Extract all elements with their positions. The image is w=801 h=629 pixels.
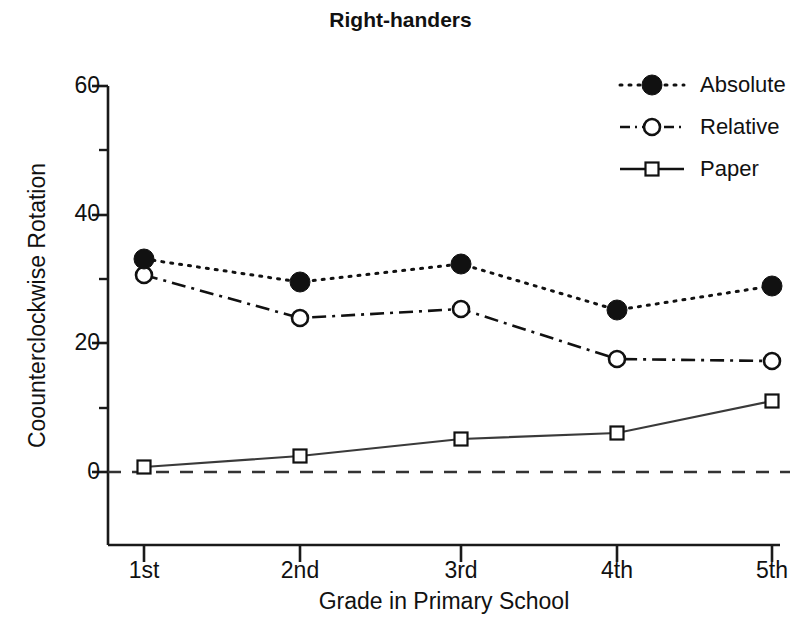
legend-key-paper bbox=[620, 163, 684, 176]
plot-area bbox=[0, 0, 801, 629]
data-point-relative-2nd bbox=[292, 310, 308, 326]
legend bbox=[620, 75, 684, 176]
data-point-absolute-5th bbox=[762, 276, 782, 296]
legend-key-relative bbox=[620, 119, 684, 135]
y-tick-label-20: 20 bbox=[40, 329, 100, 356]
x-tick-label-3rd: 3rd bbox=[421, 557, 501, 584]
legend-label-absolute: Absolute bbox=[700, 72, 786, 98]
data-point-relative-5th bbox=[764, 353, 780, 369]
data-point-absolute-4th bbox=[607, 300, 627, 320]
x-axis-label: Grade in Primary School bbox=[108, 588, 780, 615]
data-point-paper-4th bbox=[611, 427, 624, 440]
axis-spines bbox=[108, 86, 780, 545]
x-tick-label-1st: 1st bbox=[104, 557, 184, 584]
filled-circle-icon bbox=[642, 75, 662, 95]
open-circle-icon bbox=[644, 119, 660, 135]
data-point-relative-3rd bbox=[453, 301, 469, 317]
data-point-paper-1st bbox=[138, 461, 151, 474]
data-point-paper-2nd bbox=[294, 450, 307, 463]
data-point-absolute-3rd bbox=[451, 254, 471, 274]
series-relative bbox=[136, 267, 780, 369]
y-minor-ticks bbox=[99, 150, 108, 408]
series-relative-line bbox=[144, 275, 772, 361]
data-point-absolute-2nd bbox=[290, 272, 310, 292]
data-point-paper-5th bbox=[766, 395, 779, 408]
open-square-icon bbox=[646, 163, 659, 176]
x-tick-label-5th: 5th bbox=[732, 557, 801, 584]
data-point-absolute-1st bbox=[134, 249, 154, 269]
x-tick-label-4th: 4th bbox=[577, 557, 657, 584]
x-tick-label-2nd: 2nd bbox=[260, 557, 340, 584]
legend-key-absolute bbox=[620, 75, 684, 95]
data-point-relative-4th bbox=[609, 351, 625, 367]
series-paper bbox=[138, 395, 779, 474]
data-point-paper-3rd bbox=[455, 433, 468, 446]
legend-label-relative: Relative bbox=[700, 114, 779, 140]
y-tick-label-60: 60 bbox=[40, 72, 100, 99]
legend-label-paper: Paper bbox=[700, 156, 759, 182]
chart-figure: Right-handers Coounterclockwise Rotation… bbox=[0, 0, 801, 629]
y-tick-label-40: 40 bbox=[40, 200, 100, 227]
chart-title: Right-handers bbox=[0, 8, 801, 32]
y-axis-label: Coounterclockwise Rotation bbox=[24, 106, 51, 506]
y-tick-label-0: 0 bbox=[40, 458, 100, 485]
